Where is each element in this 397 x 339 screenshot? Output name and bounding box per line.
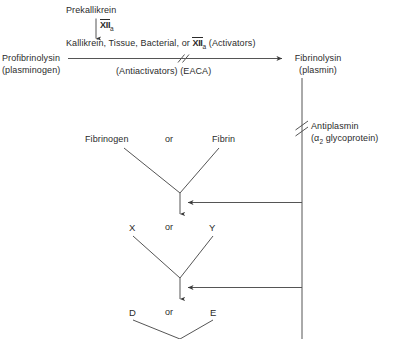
label-or-3: or	[165, 307, 173, 318]
label-fibrinolysin: Fibrinolysin (plasmin)	[283, 52, 353, 76]
xy-converge	[133, 236, 213, 299]
label-prekallikrein: Prekallikrein	[66, 5, 116, 16]
fibrinogen-fibrin-converge	[124, 148, 219, 214]
fibrinolysin-line-1: Fibrinolysin	[283, 52, 353, 64]
profibrinolysin-line-1: Profibrinolysin	[2, 52, 60, 64]
activators-prefix: Kallikrein, Tissue, Bacterial, or	[66, 38, 192, 48]
plasmin-activity-line	[296, 78, 309, 339]
label-antiplasmin: Antiplasmin (α2 glycoprotein)	[311, 120, 378, 148]
label-fragment-x: X	[129, 222, 135, 233]
activation-arrow	[68, 55, 282, 63]
fibrinolysin-line-2: (plasmin)	[283, 64, 353, 76]
label-antiactivators: (Antiactivators) (EACA)	[116, 66, 211, 77]
label-factor-xiia: XIIa	[100, 20, 114, 34]
antiplasmin-line-1: Antiplasmin	[311, 120, 378, 132]
factor-xiia-numeral: XII	[100, 20, 110, 30]
antiplasmin-line-2: (α2 glycoprotein)	[311, 132, 378, 148]
label-or-1: or	[165, 134, 173, 145]
antiplasmin-glycoprotein: glycoprotein)	[323, 133, 378, 143]
label-fragment-e: E	[210, 307, 216, 318]
label-fibrin: Fibrin	[212, 134, 235, 145]
label-fragment-y: Y	[209, 222, 215, 233]
label-or-2: or	[165, 222, 173, 233]
activators-numeral: XII	[192, 38, 202, 48]
label-activators: Kallikrein, Tissue, Bacterial, or XIIa (…	[66, 38, 256, 52]
fibrinolysis-diagram: Prekallikrein XIIa Kallikrein, Tissue, B…	[0, 0, 397, 339]
label-fibrinogen: Fibrinogen	[85, 134, 129, 145]
label-fragment-d: D	[129, 307, 136, 318]
label-profibrinolysin: Profibrinolysin (plasminogen)	[2, 52, 60, 76]
activators-suffix: (Activators)	[206, 38, 255, 48]
factor-xiia-subscript: a	[110, 25, 114, 32]
de-converge	[133, 320, 213, 339]
profibrinolysin-line-2: (plasminogen)	[2, 64, 60, 76]
